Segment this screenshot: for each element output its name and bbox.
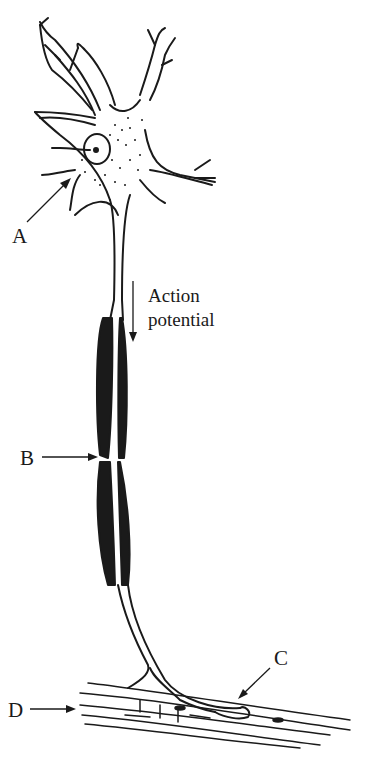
axon-left-edge — [110, 200, 115, 320]
label-C: C — [274, 648, 288, 669]
annotation-line-1: Action — [148, 284, 214, 308]
action-potential-annotation: Action potential — [148, 284, 214, 332]
annotation-line-2: potential — [148, 308, 214, 332]
arrow-A — [27, 182, 67, 222]
nucleolus — [94, 148, 98, 152]
neuron-diagram — [0, 0, 372, 758]
arrow-C — [242, 668, 270, 695]
cytoplasm-granules — [81, 117, 143, 186]
label-A: A — [12, 226, 27, 247]
label-B: B — [20, 448, 34, 469]
axon-branch-left — [118, 585, 148, 688]
label-D: D — [8, 700, 23, 721]
muscle-fiber — [80, 683, 350, 748]
axon-right-edge — [122, 195, 130, 320]
myelin-sheath — [97, 318, 130, 585]
